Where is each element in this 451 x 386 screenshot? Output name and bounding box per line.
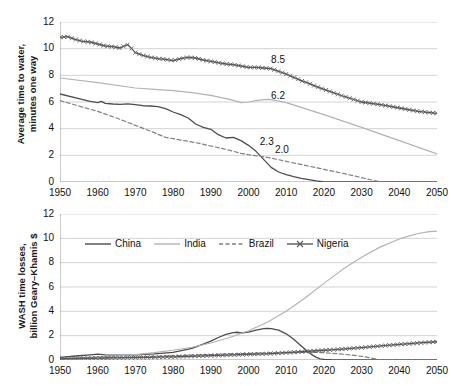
x-tick-label: 1950 [40, 187, 80, 198]
y-tick-label: 6 [26, 96, 54, 107]
legend-swatch-brazil [219, 239, 245, 249]
x-tick-label: 1960 [78, 187, 118, 198]
legend-item-nigeria[interactable]: Nigeria [287, 238, 349, 249]
y-tick-label: 4 [26, 305, 54, 316]
x-tick-label: 1980 [153, 365, 193, 376]
chart-panel-average-time-to-water: Average time to water, minutes one way 0… [0, 0, 451, 200]
legend-item-brazil[interactable]: Brazil [219, 238, 274, 249]
data-label: 2.0 [275, 144, 289, 155]
x-tick-label: 2040 [379, 187, 419, 198]
y-tick-label: 2 [26, 329, 54, 340]
data-label: 8.5 [271, 54, 285, 65]
x-tick-label: 1990 [191, 187, 231, 198]
chart-panel-wash-time-losses: WASH time losses, billion Geary–Khamis $… [0, 200, 451, 386]
plot-svg-top [60, 22, 437, 182]
plot-area-top [60, 22, 437, 182]
x-tick-label: 2000 [229, 365, 269, 376]
y-tick-label: 2 [26, 149, 54, 160]
y-tick-label: 0 [26, 354, 54, 365]
plot-svg-bottom [60, 214, 437, 360]
x-tick-label: 1970 [115, 187, 155, 198]
y-tick-label: 10 [26, 42, 54, 53]
legend-label: Brazil [249, 238, 274, 249]
x-tick-label: 2010 [266, 365, 306, 376]
legend-label: India [184, 238, 206, 249]
y-tick-label: 12 [26, 208, 54, 219]
x-tick-label: 1960 [78, 365, 118, 376]
y-tick-label: 12 [26, 16, 54, 27]
plot-area-bottom [60, 214, 437, 360]
x-tick-label: 2050 [417, 187, 451, 198]
x-tick-label: 2040 [379, 365, 419, 376]
y-tick-label: 10 [26, 232, 54, 243]
legend-item-india[interactable]: India [154, 238, 206, 249]
y-tick-label: 8 [26, 256, 54, 267]
data-label: 6.2 [271, 90, 285, 101]
legend-label: China [115, 238, 141, 249]
y-tick-label: 0 [26, 176, 54, 187]
x-tick-label: 2000 [229, 187, 269, 198]
data-label: 2.3 [260, 136, 274, 147]
two-panel-line-chart-figure: Average time to water, minutes one way 0… [0, 0, 451, 386]
x-tick-label: 2030 [342, 365, 382, 376]
legend-item-china[interactable]: China [85, 238, 141, 249]
x-tick-label: 1950 [40, 365, 80, 376]
x-tick-label: 2050 [417, 365, 451, 376]
x-tick-label: 1970 [115, 365, 155, 376]
x-tick-label: 2020 [304, 365, 344, 376]
y-tick-label: 8 [26, 69, 54, 80]
y-tick-label: 4 [26, 122, 54, 133]
legend-swatch-india [154, 239, 180, 249]
legend-swatch-nigeria [287, 239, 313, 249]
chart-legend: ChinaIndiaBrazilNigeria [85, 238, 349, 249]
legend-label: Nigeria [317, 238, 349, 249]
x-tick-label: 1980 [153, 187, 193, 198]
x-tick-label: 1990 [191, 365, 231, 376]
x-tick-label: 2030 [342, 187, 382, 198]
x-tick-label: 2020 [304, 187, 344, 198]
legend-swatch-china [85, 239, 111, 249]
x-tick-label: 2010 [266, 187, 306, 198]
y-tick-label: 6 [26, 281, 54, 292]
